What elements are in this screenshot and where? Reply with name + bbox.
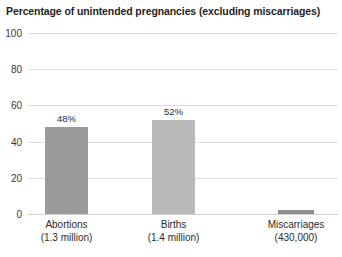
- x-axis-label-miscarriages-count: (430,000): [256, 232, 336, 245]
- bar-slot-abortions: 48% Abortions (1.3 million): [45, 33, 88, 214]
- plot-area: 100 80 60 40 20 0 48% Abortions (1.3 mil…: [28, 33, 338, 214]
- x-axis-label-miscarriages-name: Miscarriages: [268, 219, 325, 230]
- y-axis-tick-100: 100: [5, 28, 22, 39]
- x-axis-label-abortions-name: Abortions: [45, 219, 87, 230]
- x-axis-label-abortions-count: (1.3 million): [23, 232, 110, 245]
- y-axis-tick-40: 40: [11, 136, 22, 147]
- y-axis-tick-20: 20: [11, 172, 22, 183]
- bar-slot-births: 52% Births (1.4 million): [152, 33, 195, 214]
- x-axis-label-births-name: Births: [161, 219, 187, 230]
- bar-value-births: 52%: [152, 106, 195, 117]
- bar-miscarriages: [278, 210, 314, 214]
- x-axis-label-abortions: Abortions (1.3 million): [23, 219, 110, 244]
- bar-abortions: [45, 127, 88, 214]
- bar-value-abortions: 48%: [45, 113, 88, 124]
- x-axis-label-miscarriages: Miscarriages (430,000): [256, 219, 336, 244]
- bar-births: [152, 120, 195, 214]
- x-axis-label-births-count: (1.4 million): [130, 232, 217, 245]
- y-axis-tick-0: 0: [16, 209, 22, 220]
- bar-slot-miscarriages: Miscarriages (430,000): [278, 33, 314, 214]
- x-axis-label-births: Births (1.4 million): [130, 219, 217, 244]
- axis-baseline: [28, 214, 338, 215]
- y-axis-tick-80: 80: [11, 64, 22, 75]
- chart-title: Percentage of unintended pregnancies (ex…: [6, 5, 320, 17]
- y-axis-tick-60: 60: [11, 100, 22, 111]
